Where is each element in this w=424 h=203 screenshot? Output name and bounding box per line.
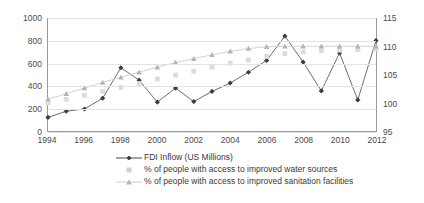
gridline [48, 18, 376, 19]
data-point [155, 77, 160, 82]
gridline [48, 64, 376, 65]
data-point [173, 73, 178, 78]
legend-item-label: % of people with access to improved wate… [144, 164, 337, 176]
x-axis-tick: 2002 [174, 136, 214, 145]
y-axis-left-tick: 1000 [8, 14, 42, 23]
gridline [48, 41, 376, 42]
data-point [45, 115, 50, 120]
gridline [48, 132, 376, 133]
gridline [48, 86, 376, 87]
legend-item-3[interactable]: % of people with access to improved sani… [116, 176, 353, 188]
data-point [191, 69, 196, 74]
x-axis-tick: 2012 [357, 136, 397, 145]
gridline [48, 109, 376, 110]
x-axis-tick: 2006 [247, 136, 287, 145]
plot-area [47, 18, 377, 132]
data-point [228, 80, 233, 85]
data-point [82, 93, 87, 98]
data-point [283, 51, 288, 56]
triangle-marker-icon [116, 176, 142, 188]
x-axis-tick: 2000 [137, 136, 177, 145]
y-axis-left-tick: 400 [8, 82, 42, 91]
data-point [100, 89, 105, 94]
x-axis-tick: 2008 [284, 136, 324, 145]
data-point [118, 65, 123, 70]
data-point [64, 97, 69, 102]
data-point [264, 54, 269, 59]
y-axis-right-tick: 110 [383, 43, 413, 52]
data-point [246, 57, 251, 62]
data-point [355, 97, 360, 102]
x-axis-tick: 1994 [27, 136, 67, 145]
legend-item-label: % of people with access to improved sani… [144, 176, 353, 188]
data-point [100, 96, 105, 101]
chart-legend: FDI Inflow (US Millions)% of people with… [116, 152, 353, 188]
legend-item-label: FDI Inflow (US Millions) [144, 152, 233, 164]
series-line [48, 36, 376, 117]
data-point [319, 88, 324, 93]
data-point [209, 89, 214, 94]
diamond-marker-icon [116, 152, 142, 164]
y-axis-right-tick: 105 [383, 71, 413, 80]
data-point [301, 50, 306, 55]
chart-container: FDI Inflow (US Millions)% of people with… [0, 0, 424, 203]
data-point [337, 48, 342, 53]
data-point [210, 65, 215, 70]
series-lines [48, 18, 376, 131]
x-axis-tick: 1998 [100, 136, 140, 145]
y-axis-left-tick: 200 [8, 105, 42, 114]
data-point [319, 48, 324, 53]
legend-item-2[interactable]: % of people with access to improved wate… [116, 164, 353, 176]
data-point [137, 81, 142, 86]
square-marker-icon [116, 164, 142, 176]
legend-item-1[interactable]: FDI Inflow (US Millions) [116, 152, 353, 164]
y-axis-right-tick: 115 [383, 14, 413, 23]
x-axis-tick: 2004 [210, 136, 250, 145]
y-axis-left-tick: 600 [8, 60, 42, 69]
y-axis-right-tick: 100 [383, 100, 413, 109]
data-point [246, 70, 251, 75]
x-axis-tick: 2010 [320, 136, 360, 145]
x-axis-tick: 1996 [64, 136, 104, 145]
series-line [48, 49, 376, 103]
y-axis-left-tick: 800 [8, 37, 42, 46]
